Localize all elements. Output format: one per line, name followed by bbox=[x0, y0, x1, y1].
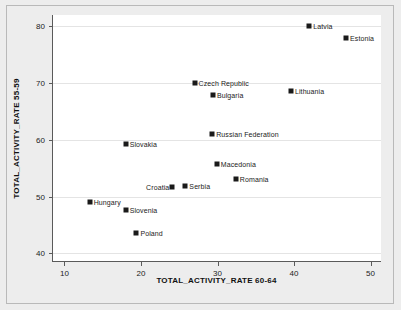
data-point-marker bbox=[210, 132, 215, 137]
y-tick-60 bbox=[49, 140, 53, 141]
data-point-label: Croatia bbox=[146, 184, 169, 191]
data-point-marker bbox=[170, 185, 175, 190]
data-point-marker bbox=[344, 36, 349, 41]
data-point-label: Romania bbox=[240, 176, 269, 183]
data-point-label: Bulgaria bbox=[217, 92, 243, 99]
y-tick-label-50: 50 bbox=[36, 192, 45, 201]
gridline-y-60 bbox=[53, 140, 381, 141]
scatter-plot-figure: TOTAL_ACTIVITY_RATE 55-59 4050607080 102… bbox=[0, 0, 401, 310]
data-point-marker bbox=[192, 81, 197, 86]
data-point-label: Russian Federation bbox=[216, 131, 279, 138]
data-point-marker bbox=[134, 231, 139, 236]
y-tick-50 bbox=[49, 197, 53, 198]
y-tick-label-70: 70 bbox=[36, 79, 45, 88]
y-tick-80 bbox=[49, 26, 53, 27]
data-point-label: Hungary bbox=[94, 198, 121, 205]
data-point-label: Serbia bbox=[189, 182, 210, 189]
data-point-label: Estonia bbox=[350, 35, 374, 42]
data-point-label: Lithuania bbox=[295, 88, 324, 95]
data-point-marker bbox=[183, 183, 188, 188]
y-tick-40 bbox=[49, 253, 53, 254]
data-point-label: Czech Republic bbox=[199, 80, 249, 87]
data-point-label: Poland bbox=[140, 230, 162, 237]
y-tick-label-80: 80 bbox=[36, 22, 45, 31]
y-axis-title: TOTAL_ACTIVITY_RATE 55-59 bbox=[11, 15, 21, 262]
x-tick-40 bbox=[294, 262, 295, 266]
x-tick-10 bbox=[64, 262, 65, 266]
data-point-marker bbox=[233, 177, 238, 182]
x-axis-title: TOTAL_ACTIVITY_RATE 60-64 bbox=[52, 276, 381, 285]
data-point-marker bbox=[214, 162, 219, 167]
data-point-marker bbox=[210, 93, 215, 98]
data-point-marker bbox=[87, 199, 92, 204]
y-axis-title-text: TOTAL_ACTIVITY_RATE 55-59 bbox=[12, 78, 21, 198]
data-point-marker bbox=[123, 141, 128, 146]
y-tick-label-40: 40 bbox=[36, 249, 45, 258]
x-tick-20 bbox=[141, 262, 142, 266]
data-point-marker bbox=[288, 89, 293, 94]
data-point-label: Slovenia bbox=[130, 207, 158, 214]
y-tick-label-60: 60 bbox=[36, 135, 45, 144]
data-point-label: Latvia bbox=[313, 23, 332, 30]
x-tick-50 bbox=[371, 262, 372, 266]
plot-area: 4050607080 1020304050 LatviaEstoniaCzech… bbox=[52, 15, 381, 262]
gridline-y-40 bbox=[53, 253, 381, 254]
x-tick-30 bbox=[218, 262, 219, 266]
data-point-label: Slovakia bbox=[130, 140, 157, 147]
data-point-label: Macedonia bbox=[221, 161, 256, 168]
data-point-marker bbox=[123, 208, 128, 213]
data-point-marker bbox=[307, 24, 312, 29]
y-tick-70 bbox=[49, 83, 53, 84]
